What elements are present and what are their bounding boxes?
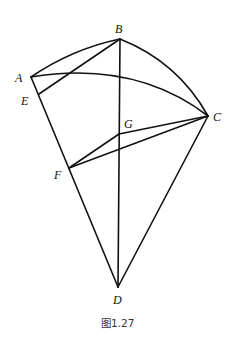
geometry-figure: B A E C G F D 图1.27 [0,0,231,340]
arc-BC [120,39,208,116]
segment-GF [69,134,119,168]
label-E: E [20,94,29,108]
segment-FC [69,116,208,168]
segment-BE [39,39,120,94]
label-D: D [112,293,122,307]
arc-AB [31,39,120,77]
label-G: G [124,117,133,131]
segment-CD [118,116,208,287]
figure-caption: 图1.27 [101,317,134,329]
label-C: C [213,110,222,124]
segment-AD [31,77,118,287]
label-B: B [115,22,123,36]
label-A: A [14,71,23,85]
label-F: F [53,168,62,182]
